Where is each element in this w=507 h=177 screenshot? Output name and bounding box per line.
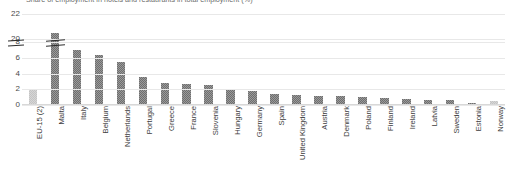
x-axis-tick-label: Spain (278, 106, 286, 125)
x-axis-tick-label: EU-15 (2) (36, 106, 44, 139)
plot-area (22, 12, 505, 105)
x-axis-tick-label: Denmark (343, 106, 351, 137)
y-axis-tick-label: 22 (4, 10, 20, 18)
bar (29, 89, 38, 106)
bar (139, 77, 148, 105)
x-axis-tick-label: Belgium (102, 106, 110, 133)
axis-baseline (22, 104, 505, 105)
x-axis-tick-label: Slovenia (212, 106, 220, 135)
x-axis-tick-label: Italy (80, 106, 88, 120)
x-axis-tick-label: Portugal (146, 106, 154, 134)
bar-chart: Share of employment in hotels and restau… (0, 0, 507, 177)
x-axis-tick-label: Netherlands (124, 106, 132, 147)
bar (161, 83, 170, 105)
x-axis-tick-label: Latvia (431, 106, 439, 126)
bar (226, 90, 235, 105)
y-axis-tick-label: 6 (4, 54, 20, 62)
y-axis: 024682022 (0, 12, 20, 105)
x-axis-tick-label: Norway (497, 106, 505, 132)
x-axis-tick-label: Ireland (409, 106, 417, 129)
x-axis-tick-label: United Kingdom (299, 106, 307, 160)
x-axis-tick-label: Hungary (234, 106, 242, 135)
bar (248, 91, 257, 105)
x-axis-tick-label: France (190, 106, 198, 130)
gridline (22, 42, 505, 43)
y-axis-tick-label: 2 (4, 85, 20, 93)
x-axis-labels: EU-15 (2)MaltaItalyBelgiumNetherlandsPor… (22, 106, 505, 177)
gridline (22, 58, 505, 59)
x-axis-tick-label: Estonia (475, 106, 483, 131)
bar (204, 85, 213, 106)
x-axis-tick-label: Austria (321, 106, 329, 130)
x-axis-tick-label: Greece (168, 106, 176, 131)
gridline (22, 39, 505, 40)
gridline (22, 14, 505, 15)
bar (182, 84, 191, 105)
bar (117, 62, 126, 105)
x-axis-tick-label: Finland (387, 106, 395, 131)
x-axis-tick-label: Malta (58, 106, 66, 125)
y-axis-tick-label: 4 (4, 70, 20, 78)
y-axis-tick-label: 0 (4, 101, 20, 109)
gridline (22, 89, 505, 90)
x-axis-tick-label: Sweden (453, 106, 461, 133)
chart-title: Share of employment in hotels and restau… (26, 0, 496, 5)
x-axis-tick-label: Germany (256, 106, 264, 137)
gridline (22, 74, 505, 75)
x-axis-tick-label: Poland (365, 106, 373, 130)
bar (95, 55, 104, 105)
bar (51, 33, 60, 105)
